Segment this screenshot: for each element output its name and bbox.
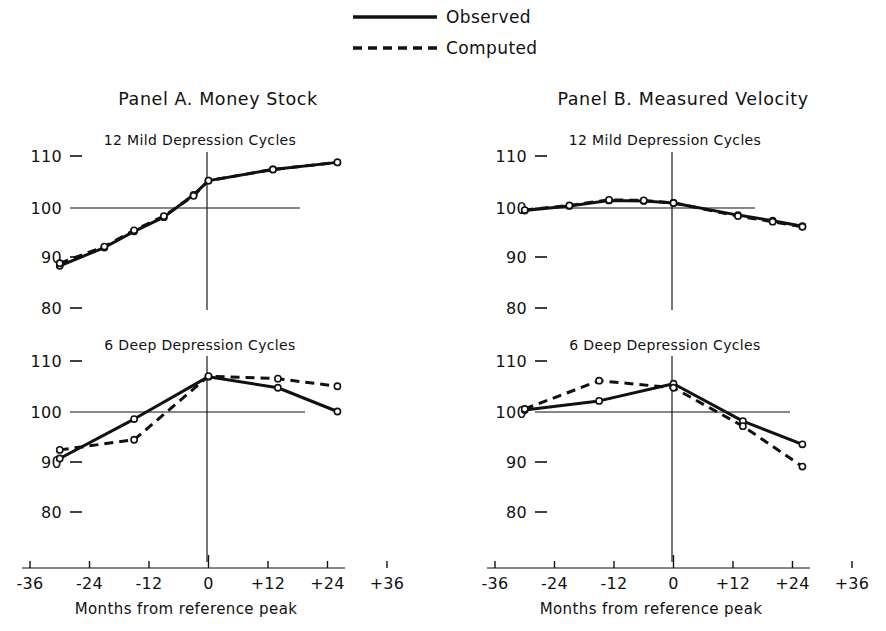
- data-point-marker: [57, 260, 63, 266]
- data-point-marker: [670, 200, 676, 206]
- reference-cycle-chart: Observed Computed Panel A. Money Stock P…: [0, 0, 886, 631]
- series-line-computed: [60, 376, 338, 450]
- data-point-marker: [799, 463, 805, 469]
- y-tick-label-80: 80: [41, 503, 62, 522]
- y-tick-label-110: 110: [31, 352, 62, 371]
- subplot-title: 6 Deep Depression Cycles: [569, 337, 760, 353]
- x-tick-label: 0: [203, 574, 213, 593]
- legend-label-computed: Computed: [446, 38, 538, 58]
- x-tick-label: -36: [16, 574, 43, 593]
- markers: [57, 159, 341, 269]
- x-tick-label: +24: [310, 574, 345, 593]
- y-tick-label-110: 110: [496, 147, 527, 166]
- data-point-marker: [191, 193, 197, 199]
- y-tick-label-80: 80: [506, 299, 527, 318]
- data-point-marker: [334, 408, 340, 414]
- data-point-marker: [670, 385, 676, 391]
- data-point-marker: [161, 213, 167, 219]
- x-axis-ticks: [495, 555, 852, 568]
- y-tick-label-100: 100: [31, 403, 62, 422]
- legend: Observed Computed: [353, 7, 538, 58]
- series-computed: [525, 381, 803, 467]
- x-tick-label: -24: [541, 574, 568, 593]
- data-point-marker: [205, 178, 211, 184]
- data-point-marker: [101, 243, 107, 249]
- series-line-observed: [60, 377, 338, 459]
- series-line-observed: [60, 162, 338, 265]
- data-point-marker: [205, 373, 211, 379]
- data-point-marker: [596, 378, 602, 384]
- subplot-panelA-deep: 6 Deep Depression Cycles 110 100 90 80: [31, 337, 341, 562]
- data-point-marker: [740, 423, 746, 429]
- x-tick-label: +24: [775, 574, 810, 593]
- x-axis-left: -36-24-120+12+24+36 Months from referenc…: [16, 555, 404, 618]
- x-tick-label: -12: [600, 574, 627, 593]
- data-point-marker: [596, 398, 602, 404]
- data-point-marker: [334, 159, 340, 165]
- y-tick-label-90: 90: [506, 248, 527, 267]
- x-axis-tick-labels: -36-24-120+12+24+36: [481, 574, 869, 593]
- x-tick-label: +12: [716, 574, 751, 593]
- y-tick-label-80: 80: [506, 503, 527, 522]
- data-point-marker: [522, 406, 528, 412]
- x-axis-tick-labels: -36-24-120+12+24+36: [16, 574, 404, 593]
- data-point-marker: [131, 416, 137, 422]
- x-tick-label: -24: [76, 574, 103, 593]
- y-tick-label-110: 110: [31, 147, 62, 166]
- x-tick-label: +36: [835, 574, 870, 593]
- markers: [522, 378, 806, 470]
- subplot-panelA-mild: 12 Mild Depression Cycles 110 100 90 80: [31, 132, 341, 318]
- data-point-marker: [641, 197, 647, 203]
- subplot-panelB-mild: 12 Mild Depression Cycles 110 100 90 80: [496, 132, 806, 318]
- data-point-marker: [566, 202, 572, 208]
- x-tick-label: -36: [481, 574, 508, 593]
- x-tick-label: +36: [370, 574, 405, 593]
- legend-label-observed: Observed: [446, 7, 531, 27]
- series-line-computed: [525, 381, 803, 467]
- x-axis-ticks: [30, 555, 387, 568]
- panel-b-title: Panel B. Measured Velocity: [557, 89, 808, 109]
- x-tick-label: +12: [251, 574, 286, 593]
- x-tick-label: -12: [135, 574, 162, 593]
- y-tick-label-90: 90: [506, 453, 527, 472]
- y-tick-label-100: 100: [31, 199, 62, 218]
- series-line-observed: [525, 384, 803, 445]
- data-point-marker: [275, 385, 281, 391]
- series-observed: [525, 384, 803, 445]
- figure-root: Observed Computed Panel A. Money Stock P…: [0, 0, 886, 631]
- data-point-marker: [57, 447, 63, 453]
- data-point-marker: [57, 455, 63, 461]
- data-point-marker: [131, 227, 137, 233]
- data-point-marker: [770, 219, 776, 225]
- series-observed: [60, 377, 338, 459]
- subplot-title: 12 Mild Depression Cycles: [569, 132, 761, 148]
- x-tick-label: 0: [668, 574, 678, 593]
- x-axis-label: Months from reference peak: [540, 600, 763, 618]
- data-point-marker: [131, 437, 137, 443]
- data-point-marker: [799, 224, 805, 230]
- y-tick-label-110: 110: [496, 352, 527, 371]
- data-point-marker: [334, 383, 340, 389]
- panel-a-title: Panel A. Money Stock: [118, 89, 318, 109]
- data-point-marker: [735, 213, 741, 219]
- series-computed: [60, 376, 338, 450]
- subplot-title: 6 Deep Depression Cycles: [104, 337, 295, 353]
- data-point-marker: [606, 197, 612, 203]
- y-tick-label-80: 80: [41, 299, 62, 318]
- data-point-marker: [275, 376, 281, 382]
- data-point-marker: [270, 166, 276, 172]
- series-observed: [60, 162, 338, 265]
- subplot-title: 12 Mild Depression Cycles: [104, 132, 296, 148]
- x-axis-right: -36-24-120+12+24+36 Months from referenc…: [481, 555, 869, 618]
- x-axis-label: Months from reference peak: [75, 600, 298, 618]
- data-point-marker: [522, 207, 528, 213]
- data-point-marker: [799, 441, 805, 447]
- subplot-panelB-deep: 6 Deep Depression Cycles 110 100 90 80: [496, 337, 806, 562]
